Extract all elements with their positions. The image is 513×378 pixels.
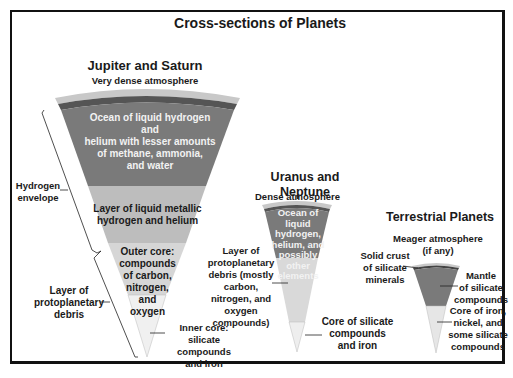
protoplanetary-label: Layer of protoplanetary debris xyxy=(34,285,104,321)
diagram-title: Cross-sections of Planets xyxy=(150,15,370,31)
js-atmosphere-label: Very dense atmosphere xyxy=(70,75,220,87)
t-core-layer xyxy=(426,306,446,353)
js-outer-core-label: Outer core: compounds of carbon, nitroge… xyxy=(115,246,180,318)
hydrogen-envelope-label: Hydrogen envelope xyxy=(15,180,61,204)
terrestrial-heading: Terrestrial Planets xyxy=(380,210,500,225)
js-inner-core-label: Inner core: silicate compounds and iron xyxy=(164,322,244,370)
un-core-layer xyxy=(289,322,305,352)
jupiter-saturn-heading: Jupiter and Saturn xyxy=(75,58,215,73)
un-core-label: Core of silicate compounds and iron xyxy=(320,316,395,352)
un-atmosphere-label: Dense atmosphere xyxy=(255,191,340,203)
js-ocean-label: Ocean of liquid hydrogen and helium with… xyxy=(80,112,220,172)
js-metallic-label: Layer of liquid metallic hydrogen and he… xyxy=(90,203,205,227)
t-core-label: Core of iron, nickel, and some silicate … xyxy=(448,305,508,353)
t-mantle-label: Mantle of silicate compounds xyxy=(452,270,510,306)
t-crust-label: Solid crust of silicate minerals xyxy=(360,250,410,286)
un-debris-label: Layer of protoplanetary debris (mostly c… xyxy=(196,245,286,329)
